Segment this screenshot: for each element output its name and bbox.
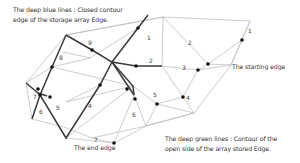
label-9: 9 (88, 39, 92, 46)
label-3: 3 (182, 64, 186, 71)
label-7: 7 (33, 93, 37, 100)
blue-lines-annotation-line2: edge of the storage array Edge. (13, 16, 109, 24)
label-6: 6 (39, 108, 43, 115)
label-1: 1 (147, 34, 151, 41)
label-r4: 4 (186, 94, 190, 101)
label-5: 5 (56, 104, 60, 111)
label-r7: 7 (94, 136, 98, 143)
starting-edge-annotation: The starting edge (232, 63, 285, 71)
thin-edges (26, 17, 250, 143)
edge-labels: 1 2 3 4 5 6 7 8 9 1 2 4 5 6 7 (33, 27, 252, 143)
label-r1: 1 (248, 27, 252, 34)
end-edge-annotation: The end edge (74, 144, 115, 152)
blue-lines-annotation-line1: The deep blue lines : Closed contour (13, 6, 123, 14)
label-4: 4 (88, 102, 92, 109)
green-lines-annotation-line1: The deep green lines : Contour of the (165, 135, 277, 143)
label-r2: 2 (188, 39, 192, 46)
green-lines-annotation-line2: open side of the array stored Edge. (165, 145, 271, 153)
label-8: 8 (59, 54, 63, 61)
label-r6: 6 (132, 111, 136, 118)
label-2: 2 (149, 57, 153, 64)
label-r5: 5 (153, 91, 157, 98)
